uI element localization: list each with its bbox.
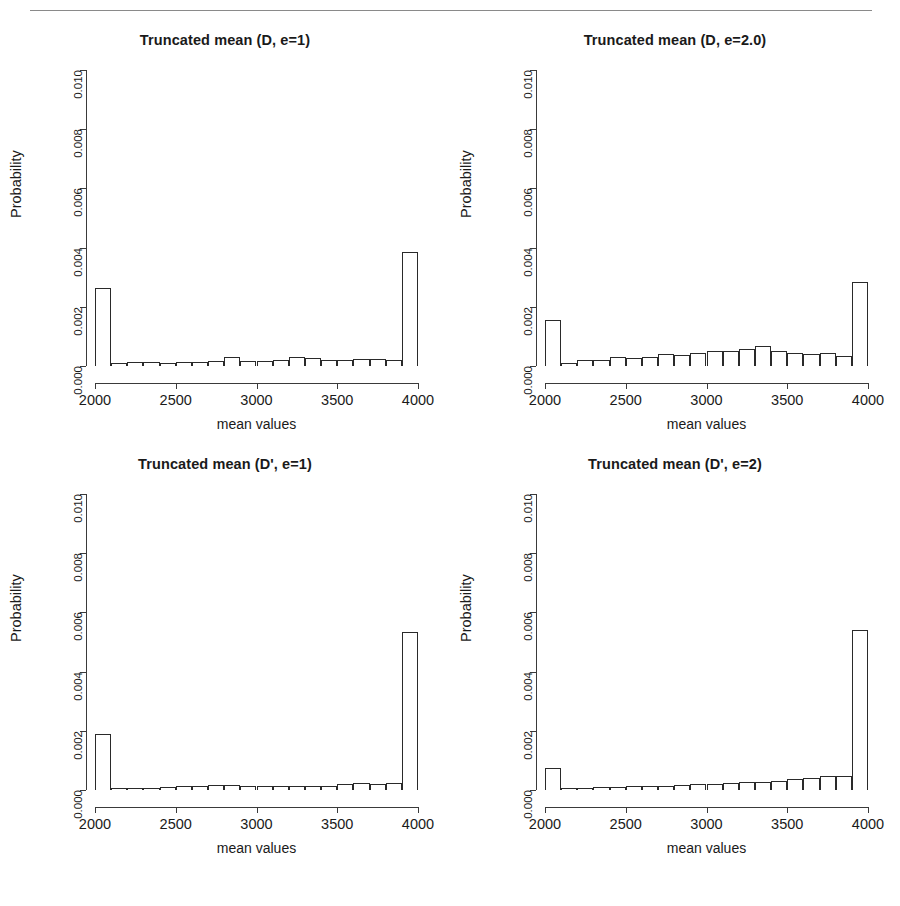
y-axis-title: Probability [458, 574, 474, 642]
histogram-bar [836, 356, 852, 366]
x-axis-tick [95, 383, 96, 389]
x-axis-tick [868, 383, 869, 389]
histogram-bar [577, 360, 593, 366]
y-axis-line [86, 494, 87, 790]
histogram-bar [803, 354, 819, 366]
x-axis-tick-label: 3500 [321, 392, 353, 408]
histogram-bar [370, 359, 386, 366]
x-axis-tick-label: 2500 [610, 816, 642, 832]
histogram-bar [771, 351, 787, 366]
histogram-bar [127, 788, 143, 790]
y-axis-tick-label: 0.010 [522, 70, 534, 99]
x-axis-tick-label: 2500 [160, 816, 192, 832]
x-axis-tick-label: 4000 [402, 816, 434, 832]
panel-top-left: Truncated mean (D, e=1)Probability0.0000… [0, 28, 450, 458]
histogram-bar [176, 786, 192, 790]
histogram-bar [337, 360, 353, 366]
x-axis-tick [337, 807, 338, 813]
y-axis-tick-label: 0.000 [72, 790, 84, 819]
x-axis-tick [257, 383, 258, 389]
y-axis-line [536, 70, 537, 366]
x-axis-title: mean values [545, 840, 868, 856]
x-axis-tick-label: 4000 [402, 392, 434, 408]
y-axis-tick-label: 0.008 [72, 553, 84, 582]
histogram-bar [208, 785, 224, 790]
histogram-bar [176, 362, 192, 366]
x-axis-tick-label: 2000 [79, 816, 111, 832]
x-axis-tick-label: 4000 [852, 392, 884, 408]
y-axis-tick-label: 0.004 [522, 248, 534, 277]
histogram-bar [127, 362, 143, 366]
histogram-bar [321, 786, 337, 790]
histogram-bar [707, 784, 723, 791]
histogram-bar [208, 361, 224, 366]
histogram-bar [820, 353, 836, 366]
histogram-bar [771, 781, 787, 790]
histogram-bar [305, 786, 321, 790]
histogram-bar [723, 783, 739, 790]
histogram-bar [642, 357, 658, 366]
y-axis-tick-label: 0.002 [522, 731, 534, 760]
histogram-bar [402, 632, 418, 790]
y-axis-title: Probability [458, 150, 474, 218]
histogram-bar [755, 346, 771, 366]
histogram-bar [626, 786, 642, 790]
histogram-bar [642, 786, 658, 790]
x-axis-tick [787, 383, 788, 389]
histogram-bar [257, 786, 273, 790]
histogram-bar [224, 785, 240, 790]
histogram-bar [852, 630, 868, 790]
x-axis-tick-label: 2000 [79, 392, 111, 408]
x-axis-tick [418, 807, 419, 813]
histogram-plot-area [545, 494, 868, 790]
histogram-bar [610, 787, 626, 790]
histogram-bar [386, 360, 402, 367]
histogram-bar [836, 776, 852, 790]
x-axis-tick [176, 807, 177, 813]
histogram-bar [755, 782, 771, 790]
panel-bottom-right: Truncated mean (D', e=2)Probability0.000… [450, 452, 900, 882]
y-axis-tick-label: 0.000 [72, 366, 84, 395]
histogram-plot-area [95, 494, 418, 790]
histogram-bar [593, 787, 609, 790]
histogram-bar [593, 360, 609, 366]
panel-top-right: Truncated mean (D, e=2.0)Probability0.00… [450, 28, 900, 458]
x-axis-tick [626, 807, 627, 813]
y-axis-tick-label: 0.002 [72, 307, 84, 336]
x-axis-title: mean values [545, 416, 868, 432]
histogram-bar [257, 361, 273, 366]
panel-title: Truncated mean (D, e=1) [0, 32, 450, 48]
x-axis-title: mean values [95, 416, 418, 432]
histogram-bar [224, 357, 240, 366]
histogram-bar [739, 349, 755, 366]
histogram-bar [273, 786, 289, 790]
histogram-bar [111, 363, 127, 366]
x-axis-tick [868, 807, 869, 813]
histogram-bar [289, 357, 305, 366]
x-axis-tick-label: 3500 [771, 392, 803, 408]
histogram-bar [353, 783, 369, 790]
histogram-bar [820, 776, 836, 790]
x-axis-tick-label: 2500 [610, 392, 642, 408]
panel-title: Truncated mean (D', e=1) [0, 456, 450, 472]
x-axis-tick [545, 383, 546, 389]
histogram-bar [402, 252, 418, 366]
x-axis-tick [707, 807, 708, 813]
y-axis-tick-label: 0.008 [522, 129, 534, 158]
y-axis-tick-label: 0.008 [522, 553, 534, 582]
y-axis-tick-label: 0.004 [72, 672, 84, 701]
y-axis-tick-label: 0.006 [72, 612, 84, 641]
x-axis-tick-label: 2500 [160, 392, 192, 408]
x-axis-tick [707, 383, 708, 389]
histogram-bar [240, 786, 256, 790]
histogram-bar [353, 359, 369, 366]
x-axis-tick [257, 807, 258, 813]
x-axis-tick [176, 383, 177, 389]
histogram-bar [723, 351, 739, 366]
y-axis-tick-label: 0.006 [72, 188, 84, 217]
x-axis-tick-label: 3500 [321, 816, 353, 832]
histogram-bar [803, 778, 819, 790]
histogram-bar [787, 779, 803, 790]
histogram-bar [95, 734, 111, 790]
histogram-bar [160, 787, 176, 790]
